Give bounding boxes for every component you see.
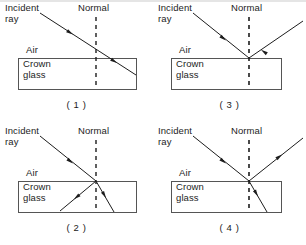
reflected-ray-line <box>249 21 303 58</box>
optics-figure: Incident ray Normal Air Crown glass ( 1 … <box>0 0 306 245</box>
panel-3: Incident ray Normal Air Crown glass ( 3 … <box>153 0 306 122</box>
panel-2: Incident ray Normal Air Crown glass ( 2 … <box>0 123 153 245</box>
panel-4-caption: ( 4 ) <box>153 222 306 233</box>
incident-ray-line <box>193 13 249 58</box>
panel-4: Incident ray Normal Air Crown glass ( 4 … <box>153 123 306 245</box>
reflected-ray-line <box>249 138 303 181</box>
incident-ray-line <box>40 136 96 181</box>
panel-3-caption: ( 3 ) <box>153 99 306 110</box>
incident-ray-line <box>193 136 249 181</box>
glass-block <box>19 59 137 90</box>
incident-ray-line <box>40 13 136 75</box>
panel-1: Incident ray Normal Air Crown glass ( 1 … <box>0 0 153 122</box>
panel-2-caption: ( 2 ) <box>0 222 153 233</box>
glass-block <box>172 59 282 90</box>
panel-1-caption: ( 1 ) <box>0 99 153 110</box>
transmitted-ray-arrowhead <box>101 191 108 199</box>
refracted-ray-arrowhead <box>253 190 260 198</box>
